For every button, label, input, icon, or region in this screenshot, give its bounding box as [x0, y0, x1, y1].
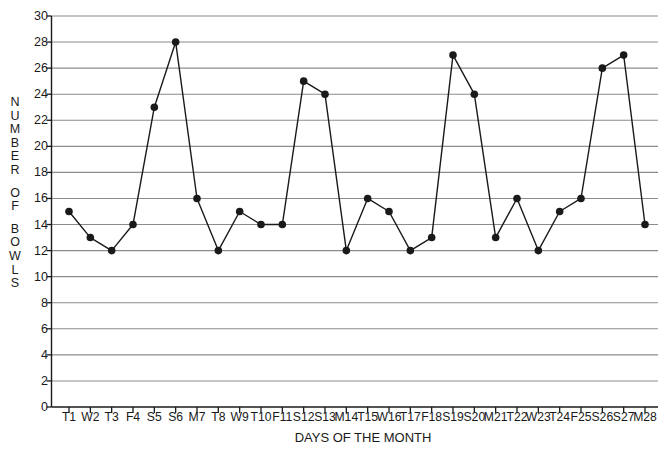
- x-tick-label: S20: [463, 410, 485, 424]
- x-tick-label: T15: [357, 410, 378, 424]
- x-tick-label: T10: [250, 410, 271, 424]
- x-tick-label: T24: [549, 410, 570, 424]
- x-tick-label: W2: [81, 410, 99, 424]
- x-tick-label: M7: [189, 410, 206, 424]
- data-point: [599, 64, 607, 72]
- x-tick-label: S12: [293, 410, 315, 424]
- data-point: [449, 51, 457, 59]
- data-point: [364, 195, 372, 203]
- data-point: [193, 195, 201, 203]
- x-tick-label: T17: [400, 410, 421, 424]
- x-tick-label: F18: [421, 410, 442, 424]
- x-tick-label: S13: [314, 410, 336, 424]
- data-point: [641, 221, 649, 229]
- x-tick-label: F25: [570, 410, 591, 424]
- data-point: [236, 208, 244, 216]
- x-tick-label: T8: [211, 410, 225, 424]
- data-point: [65, 208, 73, 216]
- data-point: [428, 234, 436, 242]
- data-point: [385, 208, 393, 216]
- y-axis-tick-marks: [47, 16, 52, 407]
- x-tick-label: S26: [591, 410, 613, 424]
- x-tick-label: W23: [526, 410, 551, 424]
- axis-lines: [52, 16, 659, 407]
- data-point: [172, 38, 180, 46]
- x-tick-label: S27: [613, 410, 635, 424]
- data-point: [151, 103, 159, 111]
- data-point: [577, 195, 585, 203]
- x-tick-label: M21: [484, 410, 508, 424]
- x-tick-label: T22: [506, 410, 527, 424]
- data-point: [257, 221, 265, 229]
- x-tick-label: T3: [105, 410, 119, 424]
- x-tick-label: W9: [231, 410, 249, 424]
- x-axis-tick-labels: T1W2T3F4S5S6M7T8W9T10F11S12S13M14T15W16T…: [0, 410, 671, 428]
- x-tick-label: T1: [62, 410, 76, 424]
- data-point: [321, 90, 329, 98]
- x-tick-label: M28: [633, 410, 657, 424]
- plot-area: [0, 0, 671, 452]
- data-point: [87, 234, 95, 242]
- data-point: [129, 221, 137, 229]
- data-point: [108, 247, 116, 255]
- x-tick-label: S19: [442, 410, 464, 424]
- x-tick-label: W16: [376, 410, 401, 424]
- data-point: [513, 195, 521, 203]
- x-tick-label: S6: [168, 410, 183, 424]
- x-tick-label: S5: [147, 410, 162, 424]
- data-point: [535, 247, 543, 255]
- data-point: [300, 77, 308, 85]
- data-point: [556, 208, 564, 216]
- line-chart: NUMBEROFBOWLS 02468101214161820222426283…: [0, 0, 671, 452]
- x-tick-label: M14: [334, 410, 358, 424]
- x-tick-label: F4: [126, 410, 140, 424]
- x-tick-label: F11: [272, 410, 292, 424]
- data-point: [215, 247, 223, 255]
- data-point: [279, 221, 287, 229]
- data-point: [343, 247, 351, 255]
- data-point: [471, 90, 479, 98]
- data-point: [407, 247, 415, 255]
- x-axis-title: DAYS OF THE MONTH: [0, 430, 671, 445]
- data-point: [492, 234, 500, 242]
- data-point: [620, 51, 628, 59]
- gridlines: [52, 16, 659, 381]
